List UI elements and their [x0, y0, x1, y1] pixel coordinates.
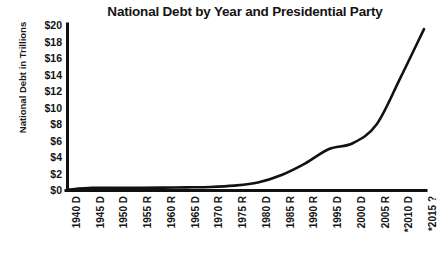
x-tick-label: 1980 D	[262, 196, 272, 228]
x-tick-label: 1950 D	[119, 196, 129, 228]
x-tick-label: 1985 R	[286, 196, 296, 228]
chart-container: National Debt by Year and Presidential P…	[0, 0, 441, 260]
x-tick-label: 1975 R	[238, 196, 248, 228]
x-tick-label: 2000 D	[357, 196, 367, 228]
x-tick-label: 1945 D	[96, 196, 106, 228]
x-tick-label: 1955 R	[143, 196, 153, 228]
x-tick-label: 2005 R	[381, 196, 391, 228]
x-axis-tick-labels: 1940 D1945 D1950 D1955 R1960 R1965 D1970…	[0, 0, 441, 260]
x-tick-label: 1970 R	[214, 196, 224, 228]
x-tick-label: 1995 D	[333, 196, 343, 228]
x-tick-label: *2015 ?	[428, 196, 438, 231]
x-tick-label: 1960 R	[167, 196, 177, 228]
x-tick-label: 1965 D	[191, 196, 201, 228]
x-tick-label: 1990 R	[309, 196, 319, 228]
x-tick-label: *2010 D	[404, 196, 414, 232]
x-tick-label: 1940 D	[72, 196, 82, 228]
